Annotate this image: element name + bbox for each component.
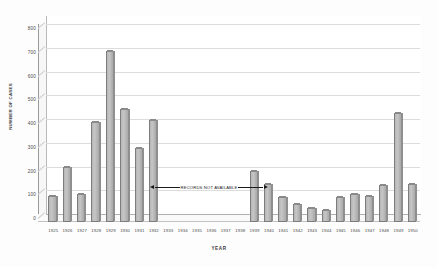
y-axis-tick-label: 800 [2,26,36,31]
bar [379,185,387,222]
bar-slot [305,32,319,222]
y-axis-tick-label: 0 [2,216,36,221]
bar [336,197,344,222]
bar [91,122,99,222]
bar-slot [233,32,247,222]
bar-slot [291,32,305,222]
bar-slot [219,32,233,222]
bar [278,197,286,222]
bar-slot [391,32,405,222]
annotation-label: RECORDS NOT AVAILABLE [181,185,238,190]
bar [77,194,85,223]
bar [408,184,416,222]
bar-slot [118,32,132,222]
bar-slot [334,32,348,222]
bar [48,196,56,222]
y-axis: 0100200300400500600700800 [0,16,36,222]
bar-slot [406,32,420,222]
bar [307,208,315,222]
bar-slot [75,32,89,222]
bar [365,196,373,222]
bar-slot [161,32,175,222]
bar-series [46,32,420,222]
bar [63,167,71,222]
annotation-line-left [155,187,180,188]
bar-slot [175,32,189,222]
bar-slot [132,32,146,222]
bar [394,113,402,222]
y-axis-tick-label: 200 [2,168,36,173]
y-axis-tick-label: 700 [2,49,36,54]
x-axis-title: YEAR [0,246,438,251]
bar-slot [89,32,103,222]
bar-slot [46,32,60,222]
arrow-left-icon [150,185,154,189]
bar-slot [60,32,74,222]
bar-slot [147,32,161,222]
y-axis-title: NUMBER OF CASES [8,77,13,137]
gridline [46,24,420,25]
bar-slot [276,32,290,222]
y-axis-tick-label: 300 [2,144,36,149]
bar-slot [362,32,376,222]
bar [149,120,157,222]
bar [350,194,358,223]
arrow-right-icon [264,185,268,189]
bar [250,171,258,222]
y-axis-tick-label: 100 [2,192,36,197]
bar [293,204,301,222]
x-axis-tick-label: 1950 [402,228,424,233]
bar [135,148,143,222]
bar [322,210,330,222]
annotation-line-right [238,187,263,188]
records-not-available-annotation: RECORDS NOT AVAILABLE [150,182,268,192]
bar-slot [377,32,391,222]
bar-slot [262,32,276,222]
bar [106,51,114,222]
bar-slot [190,32,204,222]
bar-slot [319,32,333,222]
bar-chart: 0100200300400500600700800 NUMBER OF CASE… [0,0,438,267]
bar-slot [204,32,218,222]
bar-slot [104,32,118,222]
x-axis: 1925192619271928192919301931193219331934… [40,228,426,242]
bar [120,109,128,222]
bar-slot [247,32,261,222]
bar-slot [348,32,362,222]
